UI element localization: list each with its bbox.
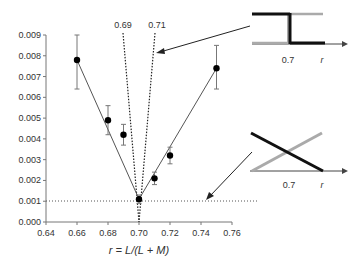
x-axis: 0.640.660.680.700.720.740.76 [37,222,241,238]
chart-canvas: 0.0000.0010.0020.0030.0040.0050.0060.007… [0,0,356,266]
data-point [167,152,173,158]
x-tick-label: 0.70 [130,228,148,238]
inset-step-model: 0.7 r [252,13,348,65]
y-tick-label: 0.004 [18,134,41,144]
fan-label-071: 0.71 [148,20,166,30]
fan-label-069: 0.69 [114,20,132,30]
data-point [74,57,80,63]
data-point [136,196,142,202]
arrow-inset1 [156,26,250,54]
x-tick-label: 0.72 [161,228,179,238]
y-tick-label: 0.009 [18,30,41,40]
data-point [151,175,157,181]
svg-text:0.7: 0.7 [282,55,295,65]
y-tick-label: 0.007 [18,72,41,82]
inset-linear-model: 0.7 r [250,133,348,190]
y-tick-label: 0.008 [18,51,41,61]
x-axis-title: r = L/(L + M) [109,244,170,256]
x-tick-label: 0.68 [99,228,117,238]
y-tick-label: 0.001 [18,196,41,206]
fan-line-071 [139,33,155,222]
data-point [105,117,111,123]
y-tick-label: 0.002 [18,175,41,185]
svg-text:0.7: 0.7 [283,180,296,190]
data-points [74,35,220,203]
y-tick-label: 0.005 [18,113,41,123]
y-tick-label: 0.003 [18,155,41,165]
y-axis: 0.0000.0010.0020.0030.0040.0050.0060.007… [18,30,46,227]
svg-text:r: r [321,180,325,190]
svg-text:r: r [321,55,325,65]
x-tick-label: 0.74 [192,228,210,238]
arrow-inset2 [206,152,252,200]
x-tick-label: 0.66 [68,228,86,238]
x-tick-label: 0.76 [223,228,241,238]
y-tick-label: 0.000 [18,217,41,227]
x-tick-label: 0.64 [37,228,55,238]
data-point [120,132,126,138]
data-point [213,65,219,71]
y-tick-label: 0.006 [18,92,41,102]
